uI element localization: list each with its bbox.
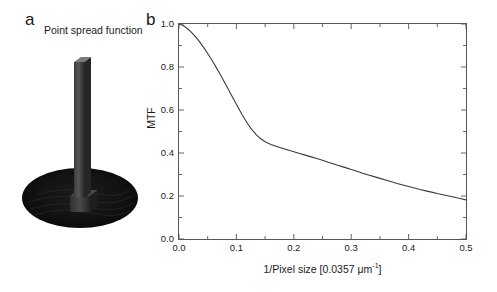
mtf-plot-frame <box>178 23 467 240</box>
x-axis-title-tail: ] <box>379 263 382 275</box>
x-tick-label: 0.1 <box>223 242 249 253</box>
x-axis-title: 1/Pixel size [0.0357 μm-1] <box>178 262 467 275</box>
x-tick-label: 0.2 <box>281 242 307 253</box>
y-tick-label: 0.4 <box>148 147 174 158</box>
panel-b-modulation-transfer-function: b Modulation transfer function MTF 1/Pix… <box>0 0 497 292</box>
axis-ticks <box>179 24 466 239</box>
x-tick-label: 0.0 <box>166 242 192 253</box>
y-tick-label: 1.0 <box>148 18 174 29</box>
mtf-plot-svg <box>179 24 466 239</box>
y-tick-label: 0.6 <box>148 104 174 115</box>
x-tick-label: 0.5 <box>453 242 479 253</box>
x-tick-label: 0.3 <box>338 242 364 253</box>
x-tick-label: 0.4 <box>396 242 422 253</box>
figure-container: a Point spread function <box>0 0 497 292</box>
y-tick-label: 0.2 <box>148 190 174 201</box>
y-tick-label: 0.8 <box>148 61 174 72</box>
mtf-curve-path <box>179 24 466 200</box>
x-axis-unit: μm <box>358 263 373 275</box>
x-axis-title-main: 1/Pixel size [0.0357 <box>264 263 358 275</box>
